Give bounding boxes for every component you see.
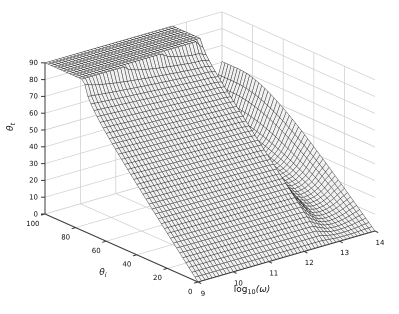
surface-plot-figure: θt θi log10(ω) [0, 0, 399, 314]
surface-mesh-canvas [0, 0, 399, 314]
